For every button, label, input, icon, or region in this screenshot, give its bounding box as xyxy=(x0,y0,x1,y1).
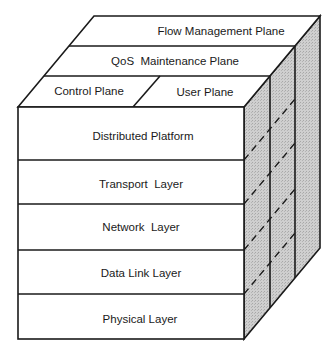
layer-transport: Transport Layer xyxy=(99,178,183,190)
layer-physical: Physical Layer xyxy=(103,313,178,325)
user-plane-label: User Plane xyxy=(177,86,234,98)
layer-network: Network Layer xyxy=(102,221,180,233)
layer-distributed-platform: Distributed Platform xyxy=(93,130,194,142)
control-plane-label: Control Plane xyxy=(54,85,124,97)
layer-data-link: Data Link Layer xyxy=(101,267,182,279)
layered-architecture-cube: Flow Management Plane QoS Maintenance Pl… xyxy=(0,0,332,349)
qos-maintenance-plane-label: QoS Maintenance Plane xyxy=(111,55,239,67)
flow-management-plane-label: Flow Management Plane xyxy=(157,25,284,37)
